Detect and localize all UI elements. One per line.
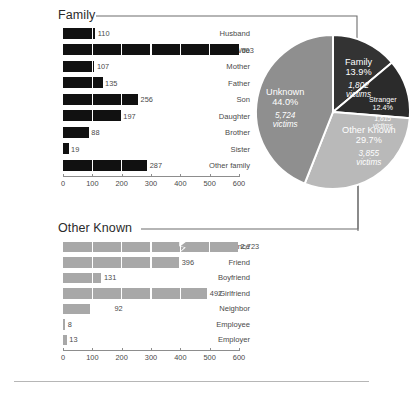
axis-tick — [239, 174, 240, 178]
bar-gridline — [121, 288, 122, 299]
bar-gridline — [121, 44, 122, 55]
axis-tick — [151, 174, 152, 178]
bar-gridline — [150, 44, 151, 55]
bar-value-label: 256 — [138, 92, 153, 107]
bar-gridline — [180, 44, 181, 55]
bar-gridline — [121, 94, 122, 105]
other-known-bar-rows: Acquaintance2,723Friend396Boyfriend131Gi… — [0, 240, 250, 347]
bar — [63, 127, 89, 138]
axis-tick — [151, 348, 152, 352]
bar-row: Girlfriend492 — [0, 287, 250, 301]
bar — [63, 110, 121, 121]
bar-value-label: 19 — [69, 142, 80, 157]
bar-gridline — [92, 288, 93, 299]
bar-plot-area: 135 — [63, 76, 250, 91]
bar-value-label: 92 — [112, 302, 123, 316]
family-bar-chart: Husband110Wife603Mother107Father135Son25… — [0, 26, 250, 196]
other-known-x-axis: 0100200300400500600 — [63, 350, 239, 368]
bar — [63, 257, 179, 268]
bar-gridline — [121, 242, 122, 253]
bar-gridline — [92, 242, 93, 253]
bar-value-label: 8 — [65, 318, 72, 332]
axis-tick — [210, 348, 211, 352]
axis-tick — [63, 174, 64, 178]
axis-tick — [210, 174, 211, 178]
bar-plot-area: 8 — [63, 318, 250, 332]
family-x-axis: 0100200300400500600 — [63, 176, 239, 194]
other-known-section-title: Other Known — [58, 221, 132, 235]
other-known-bar-chart: Acquaintance2,723Friend396Boyfriend131Gi… — [0, 240, 250, 390]
family-section-title: Family — [58, 8, 95, 22]
bar-row: Daughter197 — [0, 109, 250, 124]
bar-row: Wife603 — [0, 43, 250, 58]
footer-divider — [14, 381, 369, 382]
bar-row: Other family287 — [0, 158, 250, 173]
bar — [63, 61, 94, 72]
pie-svg — [250, 28, 416, 198]
bar-plot-area: 287 — [63, 158, 250, 173]
bar-plot-area: 2,723 — [63, 240, 250, 254]
bar-row: Sister19 — [0, 142, 250, 157]
bar — [63, 273, 101, 284]
axis-tick — [180, 348, 181, 352]
bar-gridline — [92, 257, 93, 268]
bar-value-label: 107 — [94, 59, 109, 74]
axis-tick — [63, 348, 64, 352]
axis-tick-label: 200 — [115, 353, 127, 362]
bar-value-label: 492 — [207, 287, 222, 301]
bar-row: Neighbor92 — [0, 302, 250, 316]
axis-tick-label: 300 — [145, 353, 157, 362]
infographic-root: Family Other Known Husband110Wife603Moth… — [0, 0, 416, 398]
bar-value-label: 135 — [103, 76, 118, 91]
axis-tick-label: 400 — [174, 179, 186, 188]
axis-tick-label: 100 — [86, 179, 98, 188]
bar — [63, 77, 103, 88]
relationship-pie-chart: Family13.9%1,802victimsStranger12.4%1,61… — [250, 28, 416, 198]
bar-gridline — [150, 288, 151, 299]
bar-value-label: 287 — [147, 158, 162, 173]
bar-gridline — [92, 160, 93, 171]
bar-gridline — [209, 44, 210, 55]
bar-plot-area: 92 — [63, 302, 250, 316]
axis-tick-label: 300 — [145, 179, 157, 188]
bar-gridline — [121, 160, 122, 171]
bar-plot-area: 13 — [63, 333, 250, 347]
bar-value-label: 88 — [89, 125, 100, 140]
bar — [63, 288, 207, 299]
axis-break-marker — [178, 242, 187, 253]
bar-plot-area: 88 — [63, 125, 250, 140]
bar-gridline — [92, 110, 93, 121]
axis-tick — [122, 348, 123, 352]
axis-tick-label: 0 — [61, 179, 65, 188]
axis-tick-label: 600 — [233, 179, 245, 188]
axis-tick-label: 100 — [86, 353, 98, 362]
bar-value-label: 13 — [67, 333, 78, 347]
bar-gridline — [92, 94, 93, 105]
bar-plot-area: 110 — [63, 26, 250, 41]
bar-row: Father135 — [0, 76, 250, 91]
bar-plot-area: 131 — [63, 271, 250, 285]
bar-row: Employer13 — [0, 333, 250, 347]
bar-row: Employee8 — [0, 318, 250, 332]
bar — [63, 44, 239, 55]
bar — [63, 28, 95, 39]
bar-gridline — [92, 77, 93, 88]
axis-tick — [92, 174, 93, 178]
bar — [63, 304, 90, 315]
bar — [63, 242, 238, 253]
axis-tick-label: 500 — [203, 179, 215, 188]
bar — [63, 160, 147, 171]
bar-plot-area: 603 — [63, 43, 250, 58]
bar-plot-area: 19 — [63, 142, 250, 157]
axis-tick — [122, 174, 123, 178]
bar-row: Husband110 — [0, 26, 250, 41]
bar-gridline — [121, 257, 122, 268]
axis-tick-label: 500 — [203, 353, 215, 362]
bar-gridline — [92, 28, 93, 39]
bar-gridline — [180, 288, 181, 299]
bar-plot-area: 107 — [63, 59, 250, 74]
axis-tick — [239, 348, 240, 352]
bar-gridline — [209, 242, 210, 253]
bar — [63, 94, 138, 105]
axis-tick — [92, 348, 93, 352]
